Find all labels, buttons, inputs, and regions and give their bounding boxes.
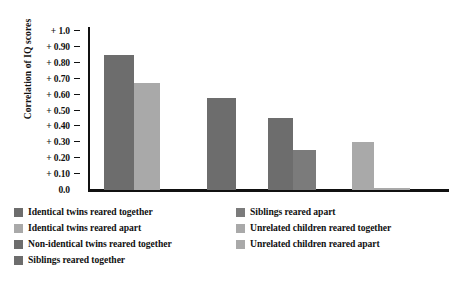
bar: [134, 83, 160, 190]
legend-item-label: Siblings reared apart: [250, 205, 335, 219]
bar: [352, 142, 374, 190]
legend-item: Unrelated children reared apart: [236, 237, 391, 252]
legend-swatch-icon: [14, 256, 23, 265]
bar: [374, 188, 410, 190]
legend-swatch-icon: [14, 224, 23, 233]
legend-column-left: Identical twins reared togetherIdentical…: [14, 205, 172, 269]
bar: [104, 55, 134, 190]
bar: [293, 150, 316, 190]
legend-item-label: Unrelated children reared apart: [250, 237, 380, 251]
legend-item: Identical twins reared apart: [14, 221, 172, 236]
legend-item: Siblings reared together: [14, 253, 172, 268]
bar: [268, 118, 293, 190]
legend-item: Siblings reared apart: [236, 205, 391, 220]
legend-item-label: Identical twins reared together: [28, 205, 153, 219]
legend-item-label: Unrelated children reared together: [250, 221, 391, 235]
chart-legend: Identical twins reared togetherIdentical…: [0, 205, 457, 289]
legend-item: Identical twins reared together: [14, 205, 172, 220]
legend-item: Unrelated children reared together: [236, 221, 391, 236]
legend-swatch-icon: [236, 240, 245, 249]
plot-area: Correlation of IQ scores + 1.0+ 0.90+ 0.…: [0, 0, 457, 200]
legend-column-right: Siblings reared apartUnrelated children …: [236, 205, 391, 253]
legend-swatch-icon: [236, 208, 245, 217]
iq-correlation-bar-chart: Correlation of IQ scores + 1.0+ 0.90+ 0.…: [0, 0, 457, 289]
legend-swatch-icon: [14, 208, 23, 217]
bar: [207, 98, 236, 190]
legend-item-label: Non-identical twins reared together: [28, 237, 172, 251]
legend-item-label: Identical twins reared apart: [28, 221, 141, 235]
legend-swatch-icon: [236, 224, 245, 233]
legend-swatch-icon: [14, 240, 23, 249]
bars-layer: [0, 0, 457, 200]
legend-item-label: Siblings reared together: [28, 253, 125, 267]
legend-item: Non-identical twins reared together: [14, 237, 172, 252]
